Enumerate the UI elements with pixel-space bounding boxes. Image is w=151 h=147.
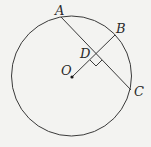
label-d: D [79, 46, 91, 61]
radius-ob [72, 35, 115, 77]
right-angle-marker [90, 60, 102, 66]
label-c: C [134, 84, 144, 99]
label-a: A [54, 3, 64, 18]
circle-geometry-diagram: A B D O C [0, 0, 151, 147]
label-b: B [115, 21, 126, 36]
label-o: O [61, 63, 72, 78]
